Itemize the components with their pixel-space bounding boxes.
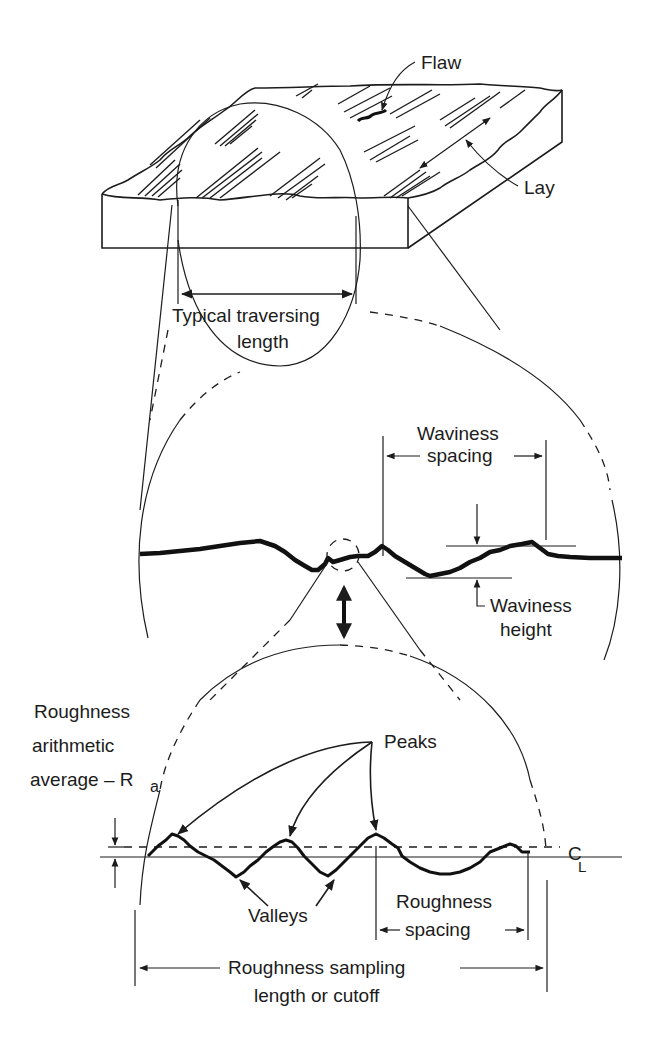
roughness-spacing-label-line1: Roughness xyxy=(396,891,492,912)
ra-label-subscript: a xyxy=(150,778,159,795)
sampling-label-line2: length or cutoff xyxy=(254,985,380,1006)
roughness-view: C L Peaks Valleys Roughness arithmetic a… xyxy=(30,645,622,1006)
specimen-block xyxy=(102,84,562,366)
roughness-profile xyxy=(148,834,530,877)
traversing-label-line1: Typical traversing xyxy=(172,305,320,326)
traversing-length-dimension: Typical traversing length xyxy=(172,200,356,352)
traversing-label-line2: length xyxy=(237,331,289,352)
flaw-label: Flaw xyxy=(421,52,461,73)
ra-label-line3: average – R xyxy=(30,769,134,790)
waviness-view: Waviness spacing Waviness height xyxy=(139,312,622,660)
waviness-spacing-label-line2: spacing xyxy=(427,445,493,466)
lay-callout: Lay xyxy=(420,118,555,198)
ra-label-line1: Roughness xyxy=(34,701,130,722)
waviness-height-label-line1: Waviness xyxy=(490,595,572,616)
ra-label-line2: arithmetic xyxy=(32,735,114,756)
waviness-height-label-line2: height xyxy=(500,619,552,640)
valleys-label: Valleys xyxy=(248,905,308,926)
surface-texture-diagram: Flaw Lay Typical traversing length Wavin… xyxy=(0,0,660,1060)
centerline-sub: L xyxy=(578,858,586,875)
lay-label: Lay xyxy=(524,177,555,198)
peaks-label: Peaks xyxy=(384,731,437,752)
roughness-spacing-label-line2: spacing xyxy=(405,919,471,940)
sampling-label-line1: Roughness sampling xyxy=(228,957,405,978)
waviness-spacing-label-line1: Waviness xyxy=(417,423,499,444)
